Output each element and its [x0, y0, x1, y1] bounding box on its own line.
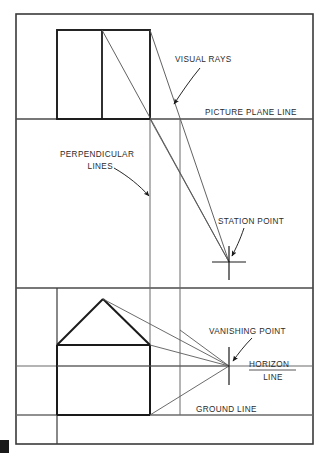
ground-line-label: GROUND LINE	[196, 405, 257, 414]
vanishing-point-label: VANISHING POINT	[209, 327, 286, 336]
horizon-line-label-line2: LINE	[263, 373, 283, 382]
page-background	[0, 0, 329, 458]
perpendicular-lines-label-line1: PERPENDICULAR	[60, 150, 134, 159]
horizon-line-label-line1: HORIZON	[249, 360, 289, 369]
perspective-construction-drawing: VISUAL RAYS PICTURE PLANE LINE PERPENDIC…	[0, 0, 329, 458]
edge-marker-tab	[0, 440, 9, 453]
station-point-label: STATION POINT	[218, 217, 284, 226]
perpendicular-lines-label-line2: LINES	[88, 162, 114, 171]
picture-plane-line-label: PICTURE PLANE LINE	[205, 108, 297, 117]
visual-rays-label: VISUAL RAYS	[175, 55, 232, 64]
perspective-diagram-root: VISUAL RAYS PICTURE PLANE LINE PERPENDIC…	[0, 0, 329, 458]
